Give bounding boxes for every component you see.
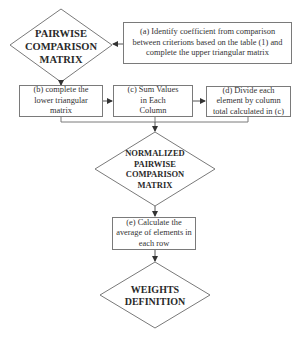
- pairwise-matrix-label: PAIRWISE COMPARISON MATRIX: [14, 24, 108, 68]
- step-b-text: (b) complete the lower triangular matrix: [23, 85, 99, 117]
- weights-definition-label: WEIGHTS DEFINITION: [110, 282, 200, 310]
- step-e-text: (e) Calculate the average of elements in…: [116, 218, 192, 250]
- step-c-text: (c) Sum Values in Each Column: [126, 85, 180, 117]
- step-d-box: (d) Divide each element by column total …: [206, 86, 291, 117]
- step-e-box: (e) Calculate the average of elements in…: [112, 217, 196, 250]
- step-a-text: (a) Identify coefficient from comparison…: [127, 27, 288, 59]
- step-b-box: (b) complete the lower triangular matrix: [19, 85, 103, 117]
- normalized-matrix-label: NORMALIZED PAIRWISE COMPARISON MATRIX: [105, 146, 205, 192]
- step-d-text: (d) Divide each element by column total …: [210, 86, 287, 118]
- step-c-box: (c) Sum Values in Each Column: [113, 85, 193, 117]
- step-a-box: (a) Identify coefficient from comparison…: [123, 22, 292, 64]
